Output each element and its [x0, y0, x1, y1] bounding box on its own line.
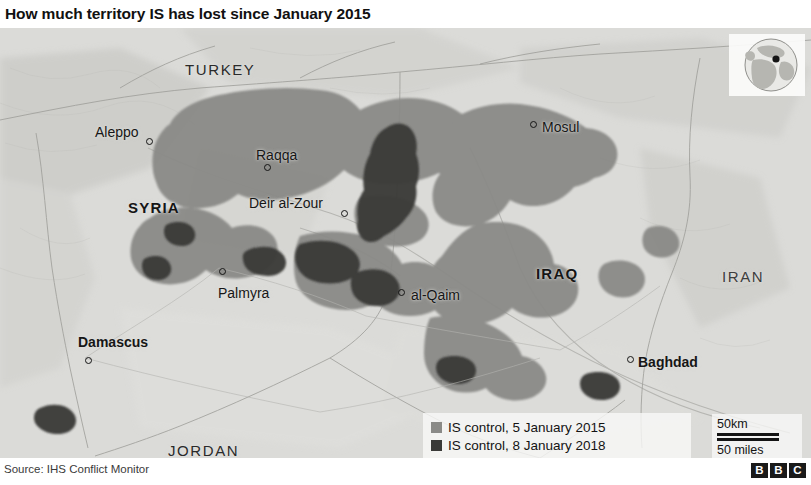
scale-label-km: 50km [717, 417, 798, 431]
globe-locator-inset [729, 34, 805, 96]
bbc-logo-letter-2: B [770, 463, 787, 478]
map-vector-layer [0, 28, 811, 458]
scale-rules [717, 433, 779, 440]
city-marker-palmyra [219, 268, 226, 275]
legend-item-2015: IS control, 5 January 2015 [431, 418, 683, 436]
region-marker [772, 55, 779, 62]
city-label-baghdad: Baghdad [638, 355, 698, 369]
bbc-logo-letter-3: C [789, 463, 806, 478]
scale-label-miles: 50 miles [717, 443, 798, 457]
city-marker-damascus [85, 357, 92, 364]
city-marker-al-qaim [398, 289, 405, 296]
city-label-raqqa: Raqqa [256, 148, 297, 162]
source-attribution: Source: IHS Conflict Monitor [4, 463, 149, 475]
city-label-palmyra: Palmyra [218, 286, 269, 300]
map-canvas: TURKEY SYRIA IRAQ IRAN JORDAN Aleppo Raq… [0, 28, 811, 458]
country-label-turkey: TURKEY [185, 62, 255, 77]
legend-panel: IS control, 5 January 2015 IS control, 8… [423, 413, 691, 458]
legend-label-2015: IS control, 5 January 2015 [448, 420, 606, 435]
scale-rule-km [717, 433, 779, 435]
scale-bar: 50km 50 miles [712, 414, 802, 458]
city-label-deir-al-zour: Deir al-Zour [249, 196, 323, 210]
bbc-map-graphic: How much territory IS has lost since Jan… [0, 0, 811, 485]
city-label-damascus: Damascus [78, 335, 148, 349]
legend-swatch-2018 [431, 440, 442, 451]
globe-icon [729, 34, 805, 96]
city-label-mosul: Mosul [542, 120, 579, 134]
bbc-logo-letter-1: B [751, 463, 768, 478]
bbc-logo: B B C [751, 463, 806, 478]
city-marker-raqqa [264, 164, 271, 171]
country-label-iran: IRAN [722, 269, 764, 284]
country-label-syria: SYRIA [128, 200, 180, 215]
title-bar: How much territory IS has lost since Jan… [0, 0, 811, 28]
city-label-aleppo: Aleppo [95, 125, 139, 139]
legend-swatch-2015 [431, 422, 442, 433]
page-title: How much territory IS has lost since Jan… [5, 5, 371, 23]
country-label-jordan: JORDAN [168, 443, 239, 458]
country-label-iraq: IRAQ [536, 266, 578, 281]
city-marker-deir-al-zour [341, 210, 348, 217]
city-marker-aleppo [146, 138, 153, 145]
city-label-al-qaim: al-Qaim [411, 288, 460, 302]
scale-rule-miles [717, 438, 779, 440]
legend-item-2018: IS control, 8 January 2018 [431, 436, 683, 454]
legend-label-2018: IS control, 8 January 2018 [448, 438, 606, 453]
city-marker-baghdad [627, 356, 634, 363]
footer-bar: Source: IHS Conflict Monitor B B C [0, 458, 811, 485]
city-marker-mosul [530, 121, 537, 128]
